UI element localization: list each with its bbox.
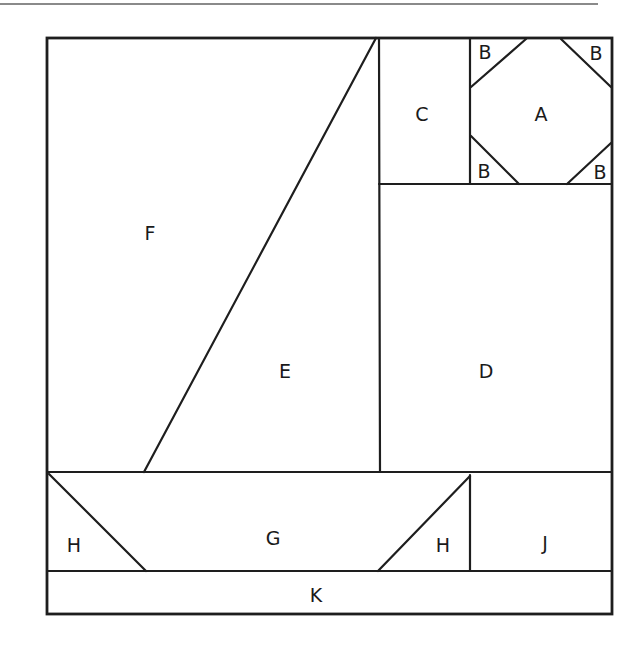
label-c: C — [415, 103, 428, 125]
label-j: J — [541, 532, 548, 554]
label-k: K — [310, 584, 323, 606]
label-h-left: H — [67, 534, 81, 556]
e-cd-divider — [379, 38, 380, 472]
right-h-diagonal — [378, 476, 470, 571]
label-f: F — [145, 222, 156, 244]
b-top-right-edge — [561, 39, 611, 87]
quilt-block-diagram: B B C A B B F E D H G H J K — [0, 0, 639, 648]
label-b-bottom-left: B — [477, 160, 490, 182]
label-e: E — [279, 360, 291, 382]
label-b-top-left: B — [478, 41, 491, 63]
left-h-diagonal — [49, 474, 146, 571]
label-g: G — [266, 527, 281, 549]
fe-diagonal — [144, 38, 376, 472]
label-a: A — [535, 103, 548, 125]
label-b-bottom-right: B — [593, 161, 606, 183]
label-d: D — [479, 360, 494, 382]
label-b-top-right: B — [589, 42, 602, 64]
label-h-right: H — [436, 534, 450, 556]
